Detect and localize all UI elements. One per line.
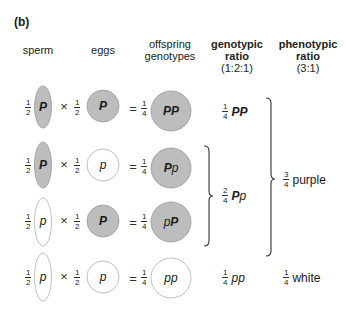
offspring-genotype-row4: pp	[164, 271, 177, 285]
panel-label: (b)	[14, 15, 29, 29]
purple-brace	[266, 98, 275, 256]
offspring-genotype-row2: Pp	[164, 161, 179, 175]
header-sperm: sperm	[13, 44, 63, 56]
equals-sign-row2: =	[129, 159, 137, 174]
sperm-allele-row4: p	[40, 270, 47, 284]
header-genotypic-line1: genotypic	[206, 38, 268, 50]
egg-allele-row1: P	[99, 99, 107, 113]
offspring-fraction-row2: 14	[141, 158, 150, 176]
offspring-genotype-row1: PP	[163, 104, 179, 118]
offspring-fraction-row3: 14	[141, 213, 150, 231]
offspring-fraction-row1: 14	[141, 100, 150, 118]
egg-fraction-row3: 12	[74, 213, 83, 231]
egg-allele-row4: p	[100, 270, 107, 284]
times-sign-row4: ×	[60, 269, 68, 284]
genotypic-ratio-PP: 14 PP	[222, 103, 247, 121]
egg-fraction-row4: 12	[74, 269, 83, 287]
phenotypic-ratio-purple: 34 purple	[283, 171, 326, 189]
offspring-fraction-row4: 14	[141, 269, 150, 287]
times-sign-row1: ×	[60, 99, 68, 114]
sperm-allele-row3: p	[40, 214, 47, 228]
header-eggs: eggs	[78, 44, 128, 56]
header-offspring-genotypes: offspring genotypes	[135, 38, 205, 62]
egg-fraction-row2: 12	[74, 157, 83, 175]
header-phenotypic-line2: ratio	[272, 50, 344, 62]
header-genotypic-line3: (1:2:1)	[206, 62, 268, 74]
sperm-fraction-row1: 12	[25, 99, 34, 117]
sperm-allele-row2: P	[39, 158, 47, 172]
equals-sign-row4: =	[129, 271, 137, 286]
header-phenotypic-ratio: phenotypic ratio (3:1)	[272, 38, 344, 74]
header-phenotypic-line3: (3:1)	[272, 62, 344, 74]
header-phenotypic-line1: phenotypic	[272, 38, 344, 50]
header-genotypic-ratio: genotypic ratio (1:2:1)	[206, 38, 268, 74]
equals-sign-row3: =	[129, 215, 137, 230]
sperm-allele-row1: P	[39, 100, 47, 114]
header-offspring-line2: genotypes	[135, 50, 205, 62]
egg-allele-row3: P	[99, 214, 107, 228]
header-genotypic-line2: ratio	[206, 50, 268, 62]
egg-fraction-row1: 12	[74, 99, 83, 117]
egg-allele-row2: p	[100, 158, 107, 172]
times-sign-row3: ×	[60, 213, 68, 228]
offspring-genotype-row3: pP	[164, 215, 179, 229]
phenotypic-ratio-white: 14 white	[283, 269, 320, 287]
sperm-fraction-row3: 12	[25, 213, 34, 231]
sperm-fraction-row4: 12	[25, 269, 34, 287]
equals-sign-row1: =	[129, 101, 137, 116]
heterozygote-brace	[204, 146, 213, 246]
sperm-fraction-row2: 12	[25, 157, 34, 175]
times-sign-row2: ×	[60, 157, 68, 172]
genotypic-ratio-Pp: 24 Pp	[222, 187, 246, 205]
genotypic-ratio-pp: 14 pp	[222, 269, 245, 287]
header-offspring-line1: offspring	[135, 38, 205, 50]
